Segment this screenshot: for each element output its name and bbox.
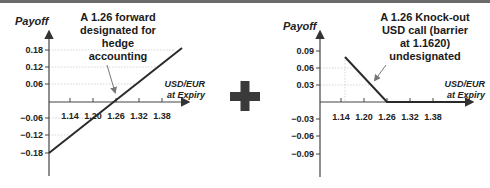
right-chart-title-line1: A 1.26 Knock-out (380, 11, 470, 23)
left-xtick-label: 1.38 (153, 111, 171, 121)
left-xtick-label: 1.26 (107, 111, 125, 121)
right-xtick-label: 1.26 (378, 112, 396, 122)
left-ytick-label: −0.06 (20, 113, 43, 123)
right-callout-arrow (375, 65, 386, 80)
left-chart-title-line2: designated for (80, 24, 157, 36)
left-chart-title-line1: A 1.26 forward (80, 11, 155, 23)
right-ytick-label: 0.09 (296, 46, 314, 56)
left-ytick-label: 0.06 (25, 79, 43, 89)
right-chart: 0.09 0.06 0.03 −0.03 −0.06 −0.09 1.14 1.… (283, 11, 486, 177)
right-y-axis-label: Payoff (283, 20, 318, 32)
right-xtick-label: 1.38 (424, 112, 442, 122)
right-ytick-label: −0.03 (291, 114, 314, 124)
right-xtick-label: 1.20 (355, 112, 373, 122)
right-ytick-label: 0.06 (296, 63, 314, 73)
right-gridlines (320, 57, 372, 102)
left-xtick-label: 1.14 (61, 111, 79, 121)
left-chart: 0.18 0.12 0.06 −0.06 −0.12 −0.18 1.14 1.… (15, 11, 206, 176)
right-ytick-label: −0.06 (291, 131, 314, 141)
right-chart-title-line4: undesignated (389, 50, 461, 62)
right-x-axis-label-line1: USD/EUR (444, 79, 485, 89)
right-xtick-label: 1.32 (401, 112, 419, 122)
left-x-axis-label-line2: at Expiry (167, 90, 206, 100)
left-ytick-label: 0.18 (25, 45, 43, 55)
left-gridlines (49, 50, 175, 135)
left-xtick-label: 1.32 (130, 111, 148, 121)
left-ytick-label: 0.12 (25, 62, 43, 72)
plus-icon (230, 81, 260, 111)
left-ytick-label: −0.12 (20, 130, 43, 140)
left-ytick-label: −0.18 (20, 148, 43, 158)
left-callout-arrow (107, 65, 115, 92)
right-ytick-label: −0.09 (291, 149, 314, 159)
left-chart-title-line3: hedge (102, 37, 134, 49)
left-y-axis-label: Payoff (15, 15, 50, 27)
right-ytick-label: 0.03 (296, 80, 314, 90)
right-xtick-label: 1.14 (332, 112, 350, 122)
right-chart-title-line3: at 1.1620) (400, 37, 450, 49)
payoff-diagrams: 0.18 0.12 0.06 −0.06 −0.12 −0.18 1.14 1.… (0, 0, 490, 188)
left-chart-title-line4: accounting (89, 50, 148, 62)
left-x-axis-label-line1: USD/EUR (164, 79, 205, 89)
right-chart-title-line2: USD call (barrier (382, 24, 469, 36)
right-x-axis-label-line2: at Expiry (447, 90, 486, 100)
